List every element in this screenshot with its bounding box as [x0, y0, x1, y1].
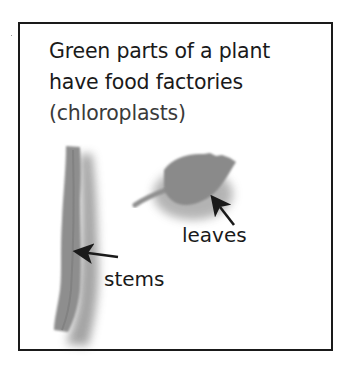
plant-illustration — [0, 0, 347, 376]
stem-icon — [54, 146, 98, 346]
label-stems: stems — [104, 267, 164, 291]
label-leaves: leaves — [182, 223, 247, 247]
